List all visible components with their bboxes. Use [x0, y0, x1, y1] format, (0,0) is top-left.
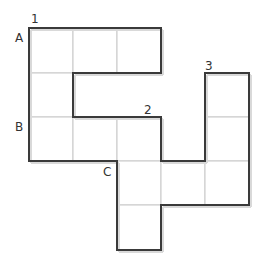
grid-diagram: 1 A B 2 3 C [0, 0, 262, 272]
grid-cell [161, 161, 205, 205]
label-a: A [15, 31, 24, 45]
label-3: 3 [205, 59, 213, 73]
grid-cell [117, 161, 161, 205]
label-c: C [103, 165, 111, 179]
grid-cell [29, 117, 73, 161]
grid-cell [29, 73, 73, 117]
grid-cell [29, 28, 73, 73]
grid-cell [117, 117, 161, 161]
grid-cells [29, 28, 249, 250]
grid-cell [205, 161, 249, 205]
grid-cell [205, 117, 249, 161]
grid-cell [117, 28, 161, 73]
grid-cell [205, 73, 249, 117]
grid-cell [73, 117, 117, 161]
label-b: B [15, 120, 23, 134]
grid-cell [73, 28, 117, 73]
polyomino-figure: 1 A B 2 3 C [0, 0, 262, 272]
label-2: 2 [144, 103, 152, 117]
label-1: 1 [31, 12, 39, 26]
grid-cell [117, 205, 161, 250]
